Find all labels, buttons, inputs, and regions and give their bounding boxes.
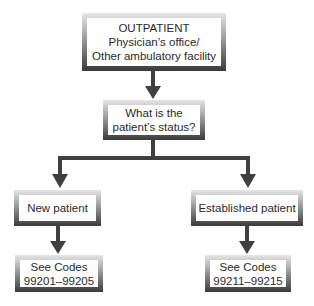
node-established-patient: Established patient xyxy=(191,190,303,226)
new-codes-range: 99201–99205 xyxy=(24,274,94,288)
new-codes-line-1: See Codes xyxy=(31,260,88,274)
node-new-codes: See Codes 99201–99205 xyxy=(15,255,103,292)
status-question-line-1: What is the xyxy=(125,106,183,120)
new-patient-label: New patient xyxy=(27,201,88,215)
node-new-patient: New patient xyxy=(14,190,101,226)
arrowhead-established-codes xyxy=(239,241,255,254)
arrowhead-established-patient xyxy=(240,174,256,188)
node-outpatient: OUTPATIENT Physician’s office/ Other amb… xyxy=(82,13,226,71)
status-question-line-2: patient’s status? xyxy=(113,120,196,134)
node-status-question: What is the patient’s status? xyxy=(103,100,205,140)
established-codes-line-1: See Codes xyxy=(220,260,277,274)
node-established-codes: See Codes 99211–99215 xyxy=(205,255,291,292)
arrowhead-new-codes xyxy=(50,241,66,254)
arrowhead-new-patient xyxy=(52,174,68,188)
outpatient-line-3: Other ambulatory facility xyxy=(92,49,216,63)
established-codes-range: 99211–99215 xyxy=(213,274,283,288)
outpatient-title: OUTPATIENT xyxy=(118,21,189,35)
arrowhead-status xyxy=(145,86,161,99)
outpatient-line-2: Physician’s office/ xyxy=(109,35,200,49)
established-patient-label: Established patient xyxy=(198,201,295,215)
